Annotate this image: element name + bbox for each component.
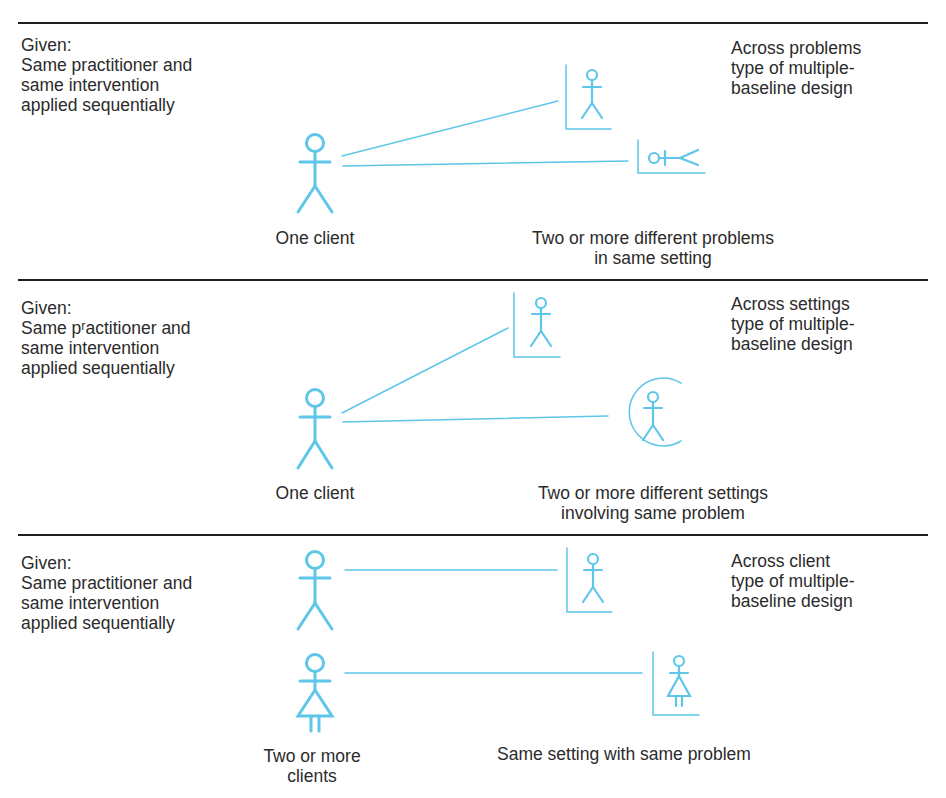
panel-3-left-caption: Two or more clients	[232, 746, 392, 786]
panel-2-left-caption: One client	[240, 483, 390, 503]
panel-3-given-text: Same practitioner and same intervention …	[21, 573, 192, 633]
diagram-graphics	[0, 0, 946, 798]
client-male-figure-icon	[298, 552, 332, 630]
client-figure-icon	[298, 135, 332, 213]
panel-3-right-caption: Same setting with same problem	[497, 744, 751, 764]
client-frame-male-icon	[567, 548, 612, 612]
problem-frame-lying-icon	[638, 140, 705, 173]
panel-2-design-type: Across settings type of multiple- baseli…	[731, 294, 855, 354]
panel-1-left-caption: One client	[240, 228, 390, 248]
panel-2-given-text: Same pʳactitioner and same intervention …	[21, 318, 191, 378]
panel-1-design-type: Across problems type of multiple- baseli…	[731, 38, 861, 98]
problem-frame-standing-icon	[566, 65, 611, 129]
client-frame-female-icon	[653, 652, 699, 715]
panel-3-design-type: Across client type of multiple- baseline…	[731, 551, 855, 611]
panel-3-given-label: Given:	[21, 553, 72, 573]
setting-circle-standing-icon	[629, 378, 681, 446]
panel-1-given-text: Same practitioner and same intervention …	[21, 55, 192, 115]
panel-2-given-label: Given:	[21, 298, 72, 318]
setting-frame-standing-icon	[514, 293, 560, 357]
panel-1-right-caption: Two or more different problems in same s…	[480, 228, 826, 268]
client-female-figure-icon	[298, 655, 332, 732]
client-figure-icon	[298, 390, 332, 469]
panel-1-given-label: Given:	[21, 35, 72, 55]
panel-2-right-caption: Two or more different settings involving…	[480, 483, 826, 523]
